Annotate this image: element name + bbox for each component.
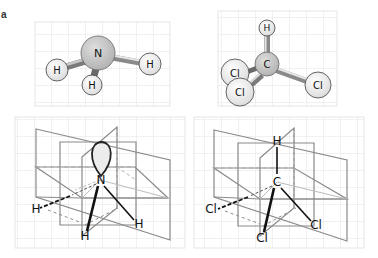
- atom-cl-right: Cl: [305, 72, 331, 98]
- svg-text:H: H: [88, 80, 96, 91]
- atom-h-label: H: [272, 134, 281, 148]
- molecular-geometry-figure: N H H H: [0, 0, 378, 258]
- atom-n-label: N: [97, 173, 106, 187]
- atom-h-right: H: [139, 53, 161, 75]
- atom-n-label: N: [94, 47, 102, 60]
- atom-n: N: [81, 36, 115, 70]
- atom-h-front: H: [82, 75, 102, 95]
- atom-c-label: C: [273, 175, 281, 189]
- chloroform-planes-panel: H C Cl Cl Cl: [194, 117, 364, 248]
- atom-h: H: [259, 20, 275, 36]
- ammonia-planes-panel: N H H H: [15, 117, 185, 248]
- svg-text:Cl: Cl: [313, 80, 323, 91]
- atom-h-left-label: H: [31, 202, 40, 216]
- chloroform-ball-stick-panel: H Cl C Cl Cl: [218, 11, 337, 106]
- ammonia-ball-stick-panel: N H H H: [35, 22, 170, 106]
- atom-cl-right-label: Cl: [310, 218, 322, 232]
- svg-text:H: H: [146, 59, 154, 70]
- svg-text:Cl: Cl: [230, 68, 240, 79]
- svg-text:H: H: [53, 65, 61, 76]
- svg-text:C: C: [264, 59, 271, 70]
- atom-c: C: [255, 52, 279, 76]
- atom-cl-front: Cl: [226, 78, 254, 106]
- atom-cl-left-label: Cl: [205, 202, 217, 216]
- atom-h-bottom-label: H: [80, 229, 89, 243]
- svg-text:H: H: [264, 23, 271, 33]
- atom-h-left: H: [46, 59, 68, 81]
- atom-cl-bottom-label: Cl: [256, 231, 268, 245]
- svg-text:Cl: Cl: [235, 87, 245, 98]
- atom-h-right-label: H: [134, 217, 143, 231]
